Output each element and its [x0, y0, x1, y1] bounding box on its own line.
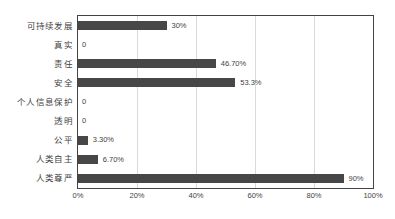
bar-value-label: 0 — [82, 117, 86, 125]
bar-row: 30% — [78, 16, 373, 35]
x-axis-tick: 20% — [129, 191, 144, 200]
bar-row: 90% — [78, 169, 373, 188]
bar — [78, 155, 98, 164]
x-axis-tick: 60% — [247, 191, 262, 200]
x-axis-tick-labels: 0%20%40%60%80%100% — [77, 191, 374, 207]
y-axis-label: 透明 — [54, 111, 73, 130]
y-axis-label: 公平 — [54, 130, 73, 149]
bar-rows: 30%046.70%53.3%003.30%6.70%90% — [78, 16, 373, 188]
bar-row: 0 — [78, 92, 373, 111]
x-axis-tick: 80% — [306, 191, 321, 200]
bar-row: 46.70% — [78, 54, 373, 73]
bar-row: 0 — [78, 35, 373, 54]
y-axis-label: 真实 — [54, 34, 73, 53]
y-axis-label: 安全 — [54, 72, 73, 91]
y-axis-label: 人类自主 — [36, 149, 73, 168]
bar-value-label: 6.70% — [103, 156, 124, 164]
bar — [78, 174, 344, 183]
y-axis-label: 可持续发展 — [27, 15, 74, 34]
bar — [78, 59, 216, 68]
bar — [78, 78, 235, 87]
bar-value-label: 90% — [349, 175, 364, 183]
bar-value-label: 3.30% — [93, 136, 114, 144]
bar-row: 6.70% — [78, 150, 373, 169]
bar-row: 3.30% — [78, 131, 373, 150]
bar-value-label: 0 — [82, 98, 86, 106]
bar-value-label: 0 — [82, 41, 86, 49]
bar-chart: 可持续发展真实责任安全个人信息保护透明公平人类自主人类尊严 30%046.70%… — [0, 0, 395, 219]
bar-value-label: 46.70% — [221, 60, 246, 68]
y-axis-label: 责任 — [54, 53, 73, 72]
y-axis-label: 个人信息保护 — [17, 91, 73, 110]
plot-area: 30%046.70%53.3%003.30%6.70%90% — [77, 15, 374, 189]
bar-value-label: 30% — [172, 22, 187, 30]
bar-row: 0 — [78, 112, 373, 131]
x-axis-tick: 100% — [363, 191, 382, 200]
bar — [78, 21, 167, 30]
x-axis-tick: 40% — [188, 191, 203, 200]
bar — [78, 136, 88, 145]
y-axis-category-labels: 可持续发展真实责任安全个人信息保护透明公平人类自主人类尊严 — [0, 15, 73, 189]
bar-value-label: 53.3% — [240, 79, 261, 87]
y-axis-label: 人类尊严 — [36, 168, 73, 187]
x-axis-tick: 0% — [73, 191, 84, 200]
bar-row: 53.3% — [78, 73, 373, 92]
